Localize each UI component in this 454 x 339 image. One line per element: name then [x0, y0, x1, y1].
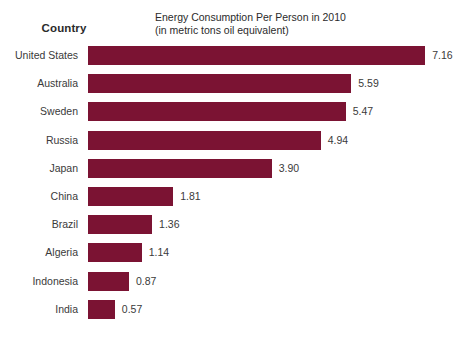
bar-category-label: Japan: [0, 159, 78, 178]
bar: [88, 215, 152, 234]
bar-value-label: 3.90: [279, 159, 299, 178]
bar-value-label: 0.87: [136, 272, 156, 291]
bar-category-label: United States: [0, 46, 78, 65]
bar-row: Indonesia0.87: [0, 272, 454, 291]
bar-category-label: China: [0, 187, 78, 206]
bar-row: Algeria1.14: [0, 243, 454, 262]
bar-value-label: 1.36: [159, 215, 179, 234]
bar: [88, 243, 142, 262]
bar-value-label: 7.16: [432, 46, 452, 65]
bar: [88, 187, 173, 206]
bar: [88, 46, 425, 65]
bar-value-label: 1.81: [180, 187, 200, 206]
bar: [88, 74, 351, 93]
bar-category-label: Russia: [0, 131, 78, 150]
bar-category-label: Brazil: [0, 215, 78, 234]
bar-row: China1.81: [0, 187, 454, 206]
bar: [88, 131, 321, 150]
bar-category-label: India: [0, 300, 78, 319]
bar-row: India0.57: [0, 300, 454, 319]
bar: [88, 159, 272, 178]
bar-row: Japan3.90: [0, 159, 454, 178]
bar-value-label: 5.47: [353, 102, 373, 121]
bar: [88, 272, 129, 291]
bar-value-label: 1.14: [149, 243, 169, 262]
bar-chart-figure: Country Energy Consumption Per Person in…: [0, 0, 454, 339]
bar: [88, 300, 115, 319]
bar-row: Russia4.94: [0, 131, 454, 150]
bar: [88, 102, 346, 121]
bar-row: Australia5.59: [0, 74, 454, 93]
plot-area: United States7.16Australia5.59Sweden5.47…: [0, 0, 454, 339]
bar-category-label: Sweden: [0, 102, 78, 121]
bar-value-label: 0.57: [122, 300, 142, 319]
bar-value-label: 4.94: [328, 131, 348, 150]
bar-row: Brazil1.36: [0, 215, 454, 234]
bar-category-label: Australia: [0, 74, 78, 93]
bar-category-label: Indonesia: [0, 272, 78, 291]
bar-row: Sweden5.47: [0, 102, 454, 121]
bar-category-label: Algeria: [0, 243, 78, 262]
bar-value-label: 5.59: [358, 74, 378, 93]
bar-row: United States7.16: [0, 46, 454, 65]
